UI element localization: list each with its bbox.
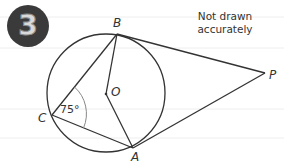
chord-ca <box>52 115 133 148</box>
question-number: 3 <box>8 6 48 46</box>
geometry-diagram: 3 Not drawn accurately B O C A P 75° <box>0 0 284 163</box>
radius-oa <box>106 94 133 148</box>
point-label-o: O <box>111 86 120 98</box>
tangent-bp <box>117 34 265 73</box>
point-label-c: C <box>38 112 46 124</box>
note-line-2: accurately <box>190 23 260 36</box>
point-label-p: P <box>269 69 276 81</box>
tangent-ap <box>133 73 265 148</box>
point-label-a: A <box>131 151 139 163</box>
not-drawn-accurately-note: Not drawn accurately <box>190 10 260 36</box>
angle-label-c: 75° <box>60 104 80 115</box>
point-label-b: B <box>113 17 121 29</box>
note-line-1: Not drawn <box>190 10 260 23</box>
center-point <box>105 93 108 96</box>
